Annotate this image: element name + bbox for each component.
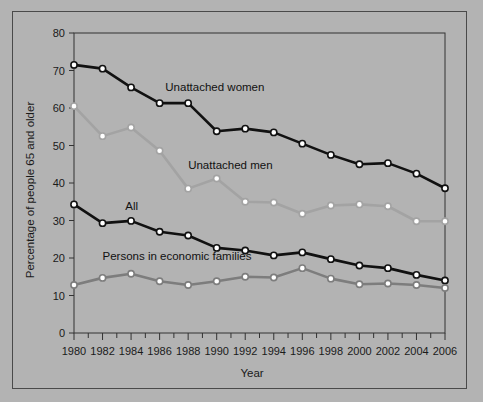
y-axis-title: Percentage of people 65 and older <box>24 102 36 279</box>
x-tick-label: 1990 <box>204 345 228 357</box>
data-point <box>385 280 391 286</box>
x-tick-label: 1996 <box>290 345 314 357</box>
x-tick-label: 1988 <box>176 345 200 357</box>
data-point <box>299 265 305 271</box>
data-point <box>71 201 77 207</box>
data-point <box>157 100 163 106</box>
data-point <box>128 271 134 277</box>
data-point <box>185 282 191 288</box>
data-point <box>214 175 220 181</box>
data-point <box>71 103 77 109</box>
data-point <box>242 274 248 280</box>
y-tick-label: 30 <box>53 215 65 227</box>
x-tick-label: 1992 <box>233 345 257 357</box>
data-point <box>157 148 163 154</box>
x-tick-label: 1980 <box>62 345 86 357</box>
series-label-unattached-women: Unattached women <box>165 81 264 93</box>
data-point <box>71 282 77 288</box>
data-point <box>242 126 248 132</box>
data-point <box>413 282 419 288</box>
series-label-persons-in-economic-families: Persons in economic families <box>103 250 252 262</box>
data-point <box>356 161 362 167</box>
x-tick-label: 2002 <box>376 345 400 357</box>
x-tick-label: 2000 <box>347 345 371 357</box>
data-point <box>242 199 248 205</box>
data-point <box>299 249 305 255</box>
chart-page: 01020304050607080 1980198219841986198819… <box>0 0 483 402</box>
series-label-all: All <box>125 200 138 212</box>
data-point <box>442 277 448 283</box>
y-tick-label: 70 <box>53 65 65 77</box>
data-point <box>413 218 419 224</box>
data-point <box>385 160 391 166</box>
data-point <box>99 275 105 281</box>
series-label-unattached-men: Unattached men <box>188 159 272 171</box>
plot-area-frame <box>74 33 445 333</box>
data-point <box>385 265 391 271</box>
data-point <box>128 84 134 90</box>
data-point <box>214 128 220 134</box>
data-point <box>299 211 305 217</box>
y-tick-label: 0 <box>59 327 65 339</box>
data-point <box>271 199 277 205</box>
data-point <box>99 66 105 72</box>
data-point <box>185 100 191 106</box>
data-point <box>413 272 419 278</box>
data-point <box>356 262 362 268</box>
x-tick-label: 1986 <box>147 345 171 357</box>
data-point <box>356 281 362 287</box>
y-tick-label: 40 <box>53 177 65 189</box>
y-tick-label: 20 <box>53 252 65 264</box>
data-point <box>271 252 277 258</box>
x-axis-title: Year <box>240 367 263 379</box>
y-tick-label: 60 <box>53 102 65 114</box>
data-point <box>271 274 277 280</box>
data-point <box>271 129 277 135</box>
x-tick-label: 2004 <box>404 345 428 357</box>
data-point <box>128 124 134 130</box>
data-point <box>328 202 334 208</box>
data-point <box>157 229 163 235</box>
x-tick-label: 1984 <box>119 345 143 357</box>
series-all <box>71 201 448 283</box>
data-point <box>442 218 448 224</box>
data-point <box>328 256 334 262</box>
data-point <box>356 201 362 207</box>
line-chart: 01020304050607080 1980198219841986198819… <box>0 0 483 402</box>
x-axis: 1980198219841986198819901992199419961998… <box>62 333 457 357</box>
data-point <box>442 185 448 191</box>
y-tick-label: 10 <box>53 290 65 302</box>
y-axis: 01020304050607080 <box>53 27 74 339</box>
y-tick-label: 80 <box>53 27 65 39</box>
data-point <box>157 278 163 284</box>
data-point <box>185 186 191 192</box>
data-point <box>299 141 305 147</box>
data-point <box>99 220 105 226</box>
data-point <box>413 171 419 177</box>
x-tick-label: 1982 <box>90 345 114 357</box>
data-point <box>442 285 448 291</box>
data-point <box>214 278 220 284</box>
data-point <box>71 62 77 68</box>
x-tick-label: 1994 <box>262 345 286 357</box>
data-point <box>99 133 105 139</box>
x-tick-label: 1998 <box>319 345 343 357</box>
y-tick-label: 50 <box>53 140 65 152</box>
data-point <box>185 232 191 238</box>
data-point <box>328 152 334 158</box>
data-point <box>328 276 334 282</box>
data-point <box>385 203 391 209</box>
x-tick-label: 2006 <box>433 345 457 357</box>
data-point <box>128 218 134 224</box>
